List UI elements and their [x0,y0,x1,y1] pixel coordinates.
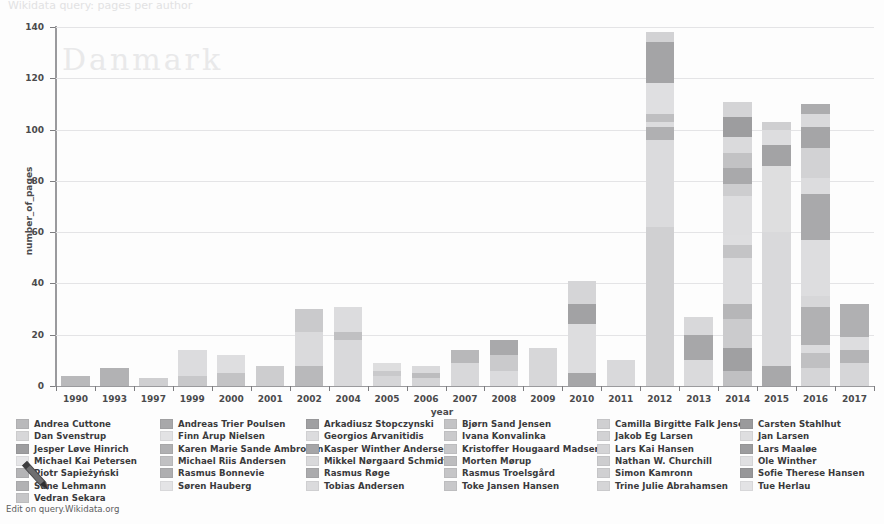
legend-item[interactable]: Carsten Stahlhut [740,418,865,430]
bar-segment[interactable] [646,114,674,122]
bar-segment[interactable] [295,332,323,365]
bar-segment[interactable] [801,368,829,386]
bar-segment[interactable] [256,366,284,387]
legend-item[interactable]: Rasmus Røge [306,467,450,479]
legend-item[interactable]: Rasmus Troelsgård [444,467,601,479]
bar-segment[interactable] [723,153,751,168]
bar-segment[interactable] [840,350,868,363]
legend-item[interactable]: Tue Herlau [740,479,865,491]
legend-item[interactable]: Kristoffer Hougaard Madsen [444,443,601,455]
bar-segment[interactable] [646,127,674,140]
bar-segment[interactable] [490,340,518,355]
bar-segment[interactable] [762,166,790,233]
bar-segment[interactable] [684,360,712,386]
bar-segment[interactable] [801,240,829,296]
bar-2013[interactable] [684,317,712,386]
bar-segment[interactable] [373,376,401,386]
legend-item[interactable]: Piotr Sapieżyński [16,467,137,479]
bar-2016[interactable] [801,104,829,386]
legend-item[interactable]: Morten Mørup [444,455,601,467]
bar-segment[interactable] [840,337,868,350]
bar-segment[interactable] [412,366,440,374]
bar-segment[interactable] [646,32,674,42]
legend-item[interactable]: Michael Riis Andersen [160,455,323,467]
bar-segment[interactable] [646,227,674,386]
bar-segment[interactable] [801,114,829,127]
bar-2006[interactable] [412,366,440,387]
bar-segment[interactable] [840,363,868,386]
bar-2007[interactable] [451,350,479,386]
bar-2014[interactable] [723,101,751,386]
bar-segment[interactable] [684,317,712,335]
bar-segment[interactable] [646,42,674,83]
legend-item[interactable]: Jakob Eg Larsen [597,430,750,442]
bar-segment[interactable] [529,348,557,386]
bar-segment[interactable] [723,348,751,371]
bar-segment[interactable] [723,196,751,234]
bar-segment[interactable] [646,83,674,114]
bar-segment[interactable] [723,319,751,347]
legend-item[interactable]: Lars Maaløe [740,443,865,455]
bar-2012[interactable] [646,32,674,386]
bar-segment[interactable] [801,127,829,148]
legend-item[interactable]: Kasper Winther Andersen [306,443,450,455]
bar-segment[interactable] [723,137,751,152]
legend-item[interactable]: Simon Kamronn [597,467,750,479]
bar-2017[interactable] [840,304,868,386]
bar-2004[interactable] [334,307,362,386]
bar-segment[interactable] [801,178,829,193]
bar-segment[interactable] [801,194,829,240]
bar-2001[interactable] [256,366,284,387]
bar-segment[interactable] [490,355,518,370]
legend-item[interactable]: Michael Kai Petersen [16,455,137,467]
bar-2015[interactable] [762,122,790,386]
bar-1993[interactable] [100,368,128,386]
bar-segment[interactable] [568,324,596,373]
bar-segment[interactable] [840,304,868,337]
legend-item[interactable]: Lars Kai Hansen [597,443,750,455]
bar-segment[interactable] [723,245,751,258]
bar-segment[interactable] [217,355,245,373]
legend-item[interactable]: Mikkel Nørgaard Schmidt [306,455,450,467]
bar-2005[interactable] [373,363,401,386]
legend-item[interactable]: Sune Lehmann [16,479,137,491]
bar-segment[interactable] [295,309,323,332]
legend-item[interactable]: Ole Winther [740,455,865,467]
bar-2011[interactable] [607,360,635,386]
bar-segment[interactable] [100,368,128,386]
bar-segment[interactable] [451,350,479,363]
bar-segment[interactable] [723,371,751,386]
legend-item[interactable]: Andreas Trier Poulsen [160,418,323,430]
bar-segment[interactable] [723,184,751,197]
legend-item[interactable]: Camilla Birgitte Falk Jensen [597,418,750,430]
bar-segment[interactable] [801,104,829,114]
edit-on-query-link[interactable]: Edit on query.Wikidata.org [6,504,119,514]
bar-segment[interactable] [801,148,829,179]
bar-segment[interactable] [762,130,790,145]
bar-2000[interactable] [217,355,245,386]
bar-1990[interactable] [61,376,89,386]
bar-2002[interactable] [295,309,323,386]
legend-item[interactable]: Georgios Arvanitidis [306,430,450,442]
bar-segment[interactable] [568,373,596,386]
bar-segment[interactable] [801,353,829,368]
legend-item[interactable]: Finn Årup Nielsen [160,430,323,442]
bar-segment[interactable] [568,304,596,325]
legend-item[interactable]: Nathan W. Churchill [597,455,750,467]
bar-segment[interactable] [723,168,751,183]
bar-segment[interactable] [334,307,362,333]
legend-item[interactable]: Søren Hauberg [160,479,323,491]
bar-segment[interactable] [762,145,790,166]
bar-segment[interactable] [684,335,712,361]
legend-item[interactable]: Karen Marie Sande Ambrosen [160,443,323,455]
bar-segment[interactable] [762,366,790,387]
bar-segment[interactable] [217,373,245,386]
bar-segment[interactable] [801,296,829,306]
bar-segment[interactable] [801,345,829,353]
bar-segment[interactable] [139,378,167,386]
bar-segment[interactable] [723,258,751,304]
legend-item[interactable]: Arkadiusz Stopczynski [306,418,450,430]
legend-item[interactable]: Trine Julie Abrahamsen [597,479,750,491]
bar-segment[interactable] [568,281,596,304]
bar-segment[interactable] [723,235,751,245]
